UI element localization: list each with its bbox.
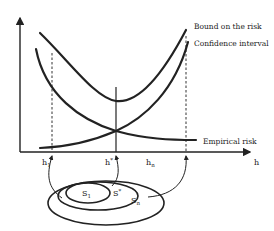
- x-tick-labels: h1 h* hn h: [42, 157, 259, 168]
- set-sstar-label: S*: [113, 188, 121, 198]
- set-s1-label: S1: [82, 189, 91, 199]
- set-sstar-ellipse: [58, 182, 138, 210]
- bound-label: Bound on the risk: [194, 22, 262, 31]
- empirical-label: Empirical risk: [203, 137, 257, 146]
- tick-hn: hn: [146, 158, 155, 168]
- confidence-label: Confidence interval: [194, 39, 269, 48]
- confidence-interval-curve: [40, 42, 188, 148]
- nested-sets: S1 S* Sn: [48, 181, 164, 225]
- reference-lines: [52, 36, 186, 152]
- curve-labels: Bound on the risk Confidence interval Em…: [194, 22, 269, 146]
- tick-hstar: h*: [105, 157, 113, 167]
- srm-diagram: Bound on the risk Confidence interval Em…: [0, 0, 274, 231]
- set-sn-label: Sn: [131, 196, 140, 206]
- x-axis-label: h: [254, 158, 259, 167]
